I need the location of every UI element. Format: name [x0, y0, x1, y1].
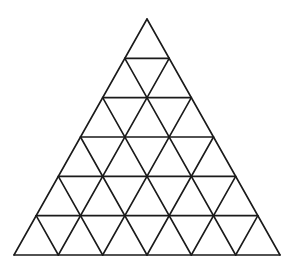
- right-diagonal-grid-line: [36, 216, 58, 255]
- triangle-grid-svg: [0, 0, 298, 270]
- left-diagonal-grid-line: [236, 216, 258, 255]
- left-diagonal-grid-line: [58, 58, 169, 255]
- left-diagonal-grid-line: [147, 137, 214, 255]
- grid-lines: [14, 19, 280, 255]
- triangle-grid-diagram: [0, 0, 298, 270]
- right-diagonal-grid-line: [81, 137, 148, 255]
- right-diagonal-grid-line: [125, 58, 236, 255]
